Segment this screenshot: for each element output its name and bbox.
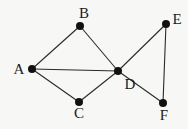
node-f (159, 99, 167, 107)
node-label-b: B (79, 5, 89, 21)
edge-e-f (163, 24, 166, 103)
nodes (28, 20, 170, 107)
edge-b-d (80, 26, 118, 71)
node-label-f: F (160, 107, 168, 123)
graph-diagram: ABCDEF (0, 0, 188, 129)
edge-a-b (32, 26, 80, 69)
node-d (114, 67, 122, 75)
edge-a-d (32, 69, 118, 71)
node-a (28, 65, 36, 73)
node-b (76, 22, 84, 30)
edge-a-c (32, 69, 79, 102)
labels: ABCDEF (14, 5, 182, 123)
node-e (162, 20, 170, 28)
edges (32, 24, 166, 103)
edge-c-d (79, 71, 118, 102)
node-label-e: E (172, 11, 181, 27)
node-label-c: C (74, 105, 84, 121)
edge-d-e (118, 24, 166, 71)
node-label-a: A (14, 61, 25, 77)
node-label-d: D (125, 76, 136, 92)
